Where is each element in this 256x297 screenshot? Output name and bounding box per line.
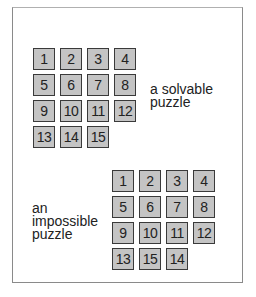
tile: 11 — [87, 100, 109, 122]
tile: 11 — [166, 222, 188, 244]
tile: 9 — [112, 222, 134, 244]
tile: 12 — [114, 100, 136, 122]
tile: 4 — [114, 48, 136, 70]
impossible-label: an impossible puzzle — [32, 202, 98, 241]
tile: 2 — [60, 48, 82, 70]
tile: 2 — [139, 170, 161, 192]
tile: 13 — [33, 126, 55, 148]
tile: 8 — [193, 196, 215, 218]
tile: 14 — [60, 126, 82, 148]
tile: 14 — [166, 248, 188, 270]
tile: 13 — [112, 248, 134, 270]
tile: 3 — [166, 170, 188, 192]
tile: 12 — [193, 222, 215, 244]
tile: 4 — [193, 170, 215, 192]
solvable-puzzle-grid: 1 2 3 4 5 6 7 8 9 10 11 12 13 14 15 — [33, 48, 136, 148]
tile: 5 — [33, 74, 55, 96]
tile: 15 — [139, 248, 161, 270]
tile: 1 — [33, 48, 55, 70]
tile: 15 — [87, 126, 109, 148]
tile: 6 — [60, 74, 82, 96]
impossible-puzzle-grid: 1 2 3 4 5 6 7 8 9 10 11 12 13 15 14 — [112, 170, 215, 270]
tile: 7 — [87, 74, 109, 96]
tile: 3 — [87, 48, 109, 70]
tile: 8 — [114, 74, 136, 96]
tile: 10 — [139, 222, 161, 244]
tile: 10 — [60, 100, 82, 122]
label-line: puzzle — [32, 228, 98, 241]
solvable-label: a solvable puzzle — [150, 83, 213, 109]
tile: 1 — [112, 170, 134, 192]
tile: 7 — [166, 196, 188, 218]
label-line: puzzle — [150, 96, 213, 109]
tile: 5 — [112, 196, 134, 218]
tile: 9 — [33, 100, 55, 122]
tile: 6 — [139, 196, 161, 218]
